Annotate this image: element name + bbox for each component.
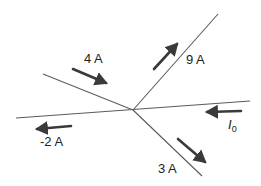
wire-upper-left: [43, 74, 133, 110]
wire-horizontal: [16, 101, 250, 118]
label-3a: 3 A: [158, 161, 177, 176]
arrow-4a-icon: [73, 69, 106, 83]
label-i0: I0: [228, 117, 237, 134]
label-neg2a: -2 A: [40, 134, 63, 149]
arrow-9a-icon: [154, 44, 177, 69]
junction-diagram: [0, 0, 261, 186]
wire-upper-right: [133, 14, 218, 110]
label-4a: 4 A: [84, 51, 103, 66]
label-i0-subscript: 0: [232, 124, 237, 134]
arrow-i0-icon: [207, 111, 241, 112]
arrow-neg2a-icon: [37, 126, 71, 129]
arrow-3a-icon: [178, 139, 205, 162]
label-9a: 9 A: [186, 52, 205, 67]
